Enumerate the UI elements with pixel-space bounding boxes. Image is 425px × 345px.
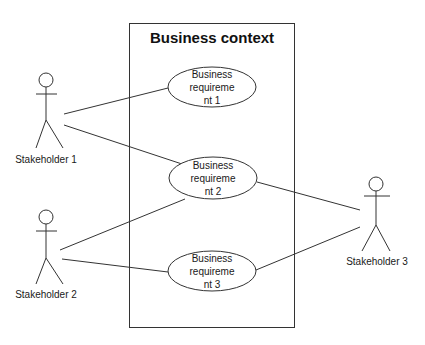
actor-icon-stakeholder-1[interactable]: [36, 73, 63, 148]
use-case-label-3-line1: Business requireme: [170, 252, 254, 278]
actor-icon-stakeholder-2[interactable]: [36, 210, 63, 284]
association-s2-br2: [60, 199, 185, 250]
actor-label-stakeholder-2: Stakeholder 2: [15, 289, 77, 300]
use-case-label-1-line1: Business requireme: [170, 68, 254, 94]
association-s2-br3: [62, 259, 168, 272]
association-s3-br2: [257, 182, 360, 210]
use-case-label-3: Business requireme nt 3: [170, 252, 254, 291]
association-s1-br2: [64, 125, 185, 165]
use-case-label-1: Business requireme nt 1: [170, 68, 254, 107]
use-case-label-1-line2: nt 1: [170, 94, 254, 107]
association-s3-br3: [256, 227, 360, 270]
use-case-label-2-line1: Business requireme: [171, 159, 255, 185]
association-s1-br1: [64, 88, 168, 114]
actor-icon-stakeholder-3[interactable]: [362, 177, 390, 251]
actor-label-stakeholder-3: Stakeholder 3: [346, 256, 408, 267]
use-case-label-3-line2: nt 3: [170, 278, 254, 291]
actor-label-stakeholder-1: Stakeholder 1: [15, 154, 77, 165]
use-case-label-2-line2: nt 2: [171, 185, 255, 198]
use-case-label-2: Business requireme nt 2: [171, 159, 255, 198]
boundary-title: Business context: [150, 29, 274, 46]
